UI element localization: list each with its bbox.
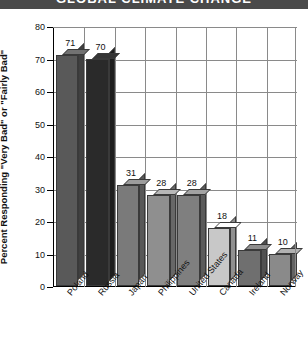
bar[interactable] (147, 195, 169, 286)
gridline-vertical (145, 27, 146, 287)
bar-chart: Percent Responding "Very Bad" or "Fairly… (0, 9, 308, 349)
y-axis-tick-label: 80 (21, 22, 45, 32)
bar-front-face (117, 185, 139, 286)
bar-value-label: 70 (81, 42, 121, 52)
plot-area: 7170312828181110 (53, 27, 296, 287)
y-axis-tick-label: 60 (21, 87, 45, 97)
bar-value-label: 18 (202, 211, 242, 221)
bar[interactable] (117, 185, 139, 286)
bar-value-label: 31 (111, 168, 151, 178)
gridline-vertical (84, 27, 85, 287)
gridline-vertical (206, 27, 207, 287)
y-axis-tick-label: 20 (21, 217, 45, 227)
chart-title-band: GLOBAL CLIMATE CHANGE (0, 0, 308, 9)
y-axis-tick-label: 10 (21, 250, 45, 260)
bar-side-face (139, 173, 145, 280)
bar-value-label: 28 (172, 178, 212, 188)
y-axis-tick-mark (47, 287, 53, 288)
bar-front-face (147, 195, 169, 286)
bar-side-face (78, 43, 84, 280)
y-axis-title: Percent Responding "Very Bad" or "Fairly… (0, 27, 12, 287)
bar-side-face (200, 183, 206, 280)
bar-front-face (56, 55, 78, 286)
bar[interactable] (86, 59, 108, 287)
bar-side-face (170, 183, 176, 280)
bar-side-face (109, 47, 115, 281)
bar-value-label: 10 (263, 237, 303, 247)
bar-front-face (86, 59, 108, 287)
y-axis-tick-label: 40 (21, 152, 45, 162)
y-axis-tick-label: 50 (21, 120, 45, 130)
y-axis-tick-label: 30 (21, 185, 45, 195)
y-axis-tick-label: 70 (21, 55, 45, 65)
chart-title: GLOBAL CLIMATE CHANGE (0, 0, 308, 7)
bar[interactable] (56, 55, 78, 286)
gridline-vertical (236, 27, 237, 287)
y-axis-tick-label: 0 (21, 282, 45, 292)
